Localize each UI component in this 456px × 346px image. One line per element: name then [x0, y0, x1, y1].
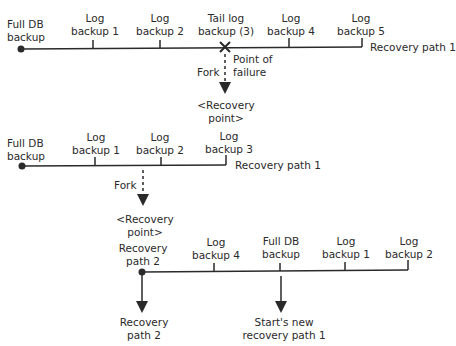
- t3-event-2: Full DB backup: [262, 235, 300, 260]
- t3-arrow-mid-label: Start's new recovery path 1: [242, 316, 325, 341]
- t1-start-label: Full DB backup: [7, 18, 45, 43]
- t1-event-4: Log backup 4: [267, 12, 315, 37]
- t3-arrow-left-label: Recovery path 2: [120, 316, 169, 341]
- t1-fork-label: Fork: [197, 66, 220, 79]
- t1-failure-label: Point of failure: [233, 53, 273, 78]
- t1-path-label: Recovery path 1: [370, 41, 456, 54]
- t2-path-label: Recovery path 1: [235, 159, 321, 172]
- t1-event-2: Log backup 2: [136, 12, 184, 37]
- t3-event-1: Log backup 4: [192, 236, 240, 261]
- t1-event-3: Tail log backup (3): [198, 12, 254, 37]
- t2-event-2: Log backup 2: [136, 131, 184, 156]
- t2-start-label: Full DB backup: [7, 137, 45, 162]
- t1-recovery-point: <Recovery point>: [197, 99, 254, 124]
- start-dot-1: [18, 46, 25, 53]
- t1-event-5: Log backup 5: [337, 12, 385, 37]
- timeline-1-line: [21, 47, 362, 49]
- t3-start-label: Recovery path 2: [119, 242, 168, 267]
- failure-x-icon: [220, 42, 230, 52]
- t2-event-3: Log backup 3: [205, 130, 253, 155]
- t2-event-1: Log backup 1: [72, 131, 120, 156]
- start-dot-2: [19, 163, 26, 170]
- t3-event-4: Log backup 2: [385, 235, 433, 260]
- t1-event-1: Log backup 1: [71, 12, 119, 37]
- t2-recovery-point: <Recovery point>: [116, 213, 173, 238]
- t2-fork-label: Fork: [114, 179, 137, 192]
- t3-event-3: Log backup 1: [322, 235, 370, 260]
- start-dot-3: [139, 269, 146, 276]
